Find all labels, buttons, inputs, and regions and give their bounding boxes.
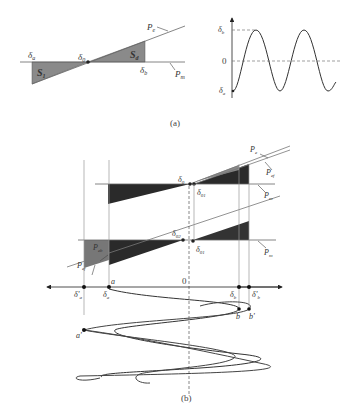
svg-text:δ01: δ01 xyxy=(197,188,206,198)
pe-leader xyxy=(157,27,168,31)
svg-text:δb: δb xyxy=(218,25,225,35)
svg-text:δ01: δ01 xyxy=(196,245,205,255)
svg-text:Pm: Pm xyxy=(263,191,273,201)
svg-text:Pm: Pm xyxy=(263,248,273,258)
label-b-prime: b' xyxy=(249,312,255,321)
label-a-prime: a' xyxy=(76,331,82,340)
svg-text:δb: δb xyxy=(140,65,147,76)
swing-curve-panel: δb 0 δa xyxy=(218,18,340,98)
svg-text:Pe: Pe xyxy=(146,22,156,33)
pe-line xyxy=(32,26,185,84)
svg-text:δa: δa xyxy=(103,290,110,300)
svg-text:δ0: δ0 xyxy=(78,52,85,63)
upper-area-left xyxy=(108,184,190,204)
delta0-point xyxy=(86,60,90,64)
svg-text:δ'a: δ'a xyxy=(74,290,82,300)
svg-text:δ'b: δ'b xyxy=(252,290,260,300)
lower-area-right xyxy=(193,221,249,240)
label-b: b xyxy=(236,312,240,321)
svg-text:Pe: Pe xyxy=(249,145,258,155)
lower-area-left xyxy=(109,240,183,265)
svg-text:Pef: Pef xyxy=(265,168,275,178)
figure-b: δ0 δ01 δ02 δ01 Pe Pef Pm Pm Peb Pef 0 a … xyxy=(47,145,290,395)
label-a: a xyxy=(111,277,115,286)
svg-text:δa: δa xyxy=(28,50,35,61)
svg-text:δa: δa xyxy=(219,86,226,96)
power-angle-diagram: δa δ0 δb S1 Sd Pe Pm δb 0 δa (a) xyxy=(0,0,348,419)
ylabel-mid: 0 xyxy=(222,56,227,66)
svg-text:δb: δb xyxy=(230,290,237,300)
caption-b: (b) xyxy=(181,393,192,403)
svg-text:δ0: δ0 xyxy=(178,175,185,185)
svg-text:Pm: Pm xyxy=(174,69,186,80)
label-zero: 0 xyxy=(182,276,187,286)
equal-area-panel: δa δ0 δb S1 Sd Pe Pm xyxy=(20,22,186,84)
swing-curve xyxy=(233,30,336,91)
caption-a: (a) xyxy=(170,118,180,128)
